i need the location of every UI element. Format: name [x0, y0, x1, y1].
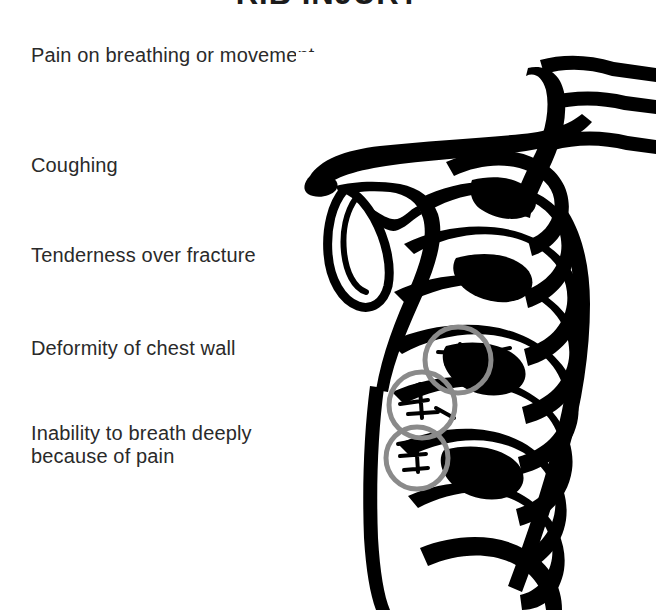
- page-title: RIB INJURY: [0, 0, 656, 12]
- symptom-item-coughing: Coughing: [31, 154, 118, 177]
- symptom-item-inability-to-breath: Inability to breath deeply because of pa…: [31, 422, 252, 468]
- page-title-clip: RIB INJURY: [0, 0, 656, 13]
- symptom-item-tenderness: Tenderness over fracture: [31, 244, 256, 267]
- rib-cage-illustration: [296, 52, 656, 610]
- infographic-page: RIB INJURY Pain on breathing or movement…: [0, 0, 656, 610]
- rib-cage-svg: [296, 52, 656, 610]
- symptom-item-pain-on-breathing: Pain on breathing or movement: [31, 44, 314, 67]
- symptom-item-deformity: Deformity of chest wall: [31, 337, 236, 360]
